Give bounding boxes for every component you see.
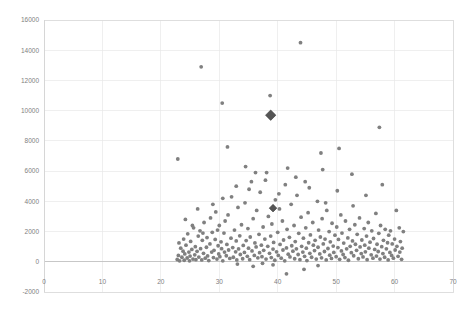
data-point xyxy=(248,235,252,239)
data-point xyxy=(370,229,374,233)
data-point xyxy=(299,41,303,45)
data-point xyxy=(261,261,265,265)
data-point xyxy=(337,147,341,151)
data-point xyxy=(196,234,200,238)
data-point xyxy=(235,258,239,262)
data-point xyxy=(358,245,362,249)
data-point xyxy=(250,249,254,253)
data-point xyxy=(395,244,399,248)
data-point xyxy=(352,254,356,258)
data-point xyxy=(260,255,264,259)
data-point xyxy=(190,247,194,251)
data-point xyxy=(348,244,352,248)
data-point xyxy=(218,255,222,259)
data-point xyxy=(306,211,310,215)
data-point xyxy=(328,240,332,244)
data-point xyxy=(226,145,230,149)
data-point xyxy=(209,216,213,220)
data-point xyxy=(217,224,221,228)
data-point xyxy=(291,249,295,253)
data-point xyxy=(286,166,290,170)
data-point xyxy=(314,257,318,261)
data-point xyxy=(269,234,273,238)
data-point xyxy=(233,228,237,232)
data-point xyxy=(199,65,203,69)
data-point xyxy=(230,195,234,199)
data-point xyxy=(383,227,387,231)
data-point xyxy=(387,233,391,237)
data-point xyxy=(215,257,219,261)
data-point xyxy=(378,257,382,261)
data-point xyxy=(346,236,350,240)
data-point xyxy=(308,251,312,255)
data-point xyxy=(330,257,334,261)
data-point xyxy=(241,257,245,261)
data-point xyxy=(398,250,402,254)
x-tick-label: 60 xyxy=(391,278,399,285)
data-point xyxy=(327,230,331,234)
data-point xyxy=(311,221,315,225)
data-point xyxy=(269,256,273,260)
data-point xyxy=(193,245,197,249)
data-point xyxy=(355,232,359,236)
data-point xyxy=(375,254,379,258)
data-point xyxy=(262,248,266,252)
data-point xyxy=(271,263,275,267)
data-point xyxy=(234,250,238,254)
plot-canvas: 010203040506070 -20000200040006000800010… xyxy=(0,0,474,324)
data-point xyxy=(334,255,338,259)
data-point xyxy=(278,207,282,211)
data-point xyxy=(253,241,257,245)
data-point xyxy=(205,245,209,249)
data-point xyxy=(234,239,238,243)
data-point xyxy=(288,235,292,239)
data-point xyxy=(304,226,308,230)
data-point xyxy=(236,205,240,209)
data-point xyxy=(183,252,187,256)
data-point xyxy=(244,165,248,169)
data-point xyxy=(231,255,235,259)
data-point xyxy=(375,242,379,246)
data-point xyxy=(330,221,334,225)
data-point xyxy=(276,254,280,258)
data-point xyxy=(333,233,337,237)
data-point xyxy=(311,243,315,247)
data-point xyxy=(216,244,220,248)
data-point xyxy=(188,254,192,258)
data-point xyxy=(189,239,193,243)
data-point xyxy=(347,258,351,262)
data-point xyxy=(336,246,340,250)
data-point xyxy=(384,247,388,251)
data-point xyxy=(285,272,289,276)
data-point xyxy=(225,243,229,247)
data-point xyxy=(221,259,225,263)
data-point xyxy=(344,219,348,223)
data-point xyxy=(194,258,198,262)
data-point xyxy=(374,212,378,216)
data-point xyxy=(237,247,241,251)
data-point xyxy=(179,246,183,250)
data-point xyxy=(271,247,275,251)
data-point xyxy=(229,236,233,240)
data-point xyxy=(285,227,289,231)
data-point xyxy=(328,253,332,257)
data-point xyxy=(236,262,240,266)
data-point xyxy=(349,251,353,255)
data-point xyxy=(342,241,346,245)
data-point xyxy=(264,178,268,182)
data-point xyxy=(339,213,343,217)
data-point xyxy=(401,230,405,234)
data-point xyxy=(335,189,339,193)
data-point xyxy=(318,252,322,256)
data-point xyxy=(275,250,279,254)
data-point xyxy=(369,253,373,257)
x-tick-label: 20 xyxy=(157,278,165,285)
data-point xyxy=(294,175,298,179)
data-point xyxy=(186,232,190,236)
data-point xyxy=(283,183,287,187)
data-point xyxy=(178,259,182,263)
data-point xyxy=(377,125,381,129)
data-point xyxy=(303,254,307,258)
data-point xyxy=(176,157,180,161)
data-point xyxy=(360,238,364,242)
